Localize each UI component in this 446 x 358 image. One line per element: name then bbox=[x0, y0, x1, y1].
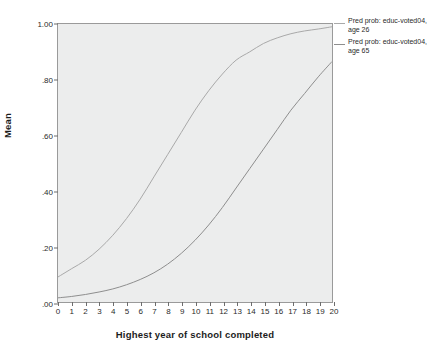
legend-line-swatch-age-65 bbox=[334, 40, 345, 47]
x-tick-label: 4 bbox=[111, 307, 115, 316]
legend-item-age-65: Pred prob: educ-voted04, age 65 bbox=[334, 37, 427, 55]
x-tick-label: 1 bbox=[70, 307, 74, 316]
x-tick-label: 15 bbox=[261, 307, 270, 316]
y-tick-label: .60 bbox=[42, 132, 53, 141]
y-tick-mark bbox=[54, 24, 58, 25]
x-tick-label: 16 bbox=[274, 307, 283, 316]
x-tick-label: 8 bbox=[166, 307, 170, 316]
x-tick-label: 11 bbox=[206, 307, 214, 316]
x-tick-label: 2 bbox=[83, 307, 87, 316]
x-tick-mark bbox=[293, 302, 294, 306]
series-line-0 bbox=[58, 27, 332, 277]
x-tick-mark bbox=[306, 302, 307, 306]
x-tick-mark bbox=[168, 302, 169, 306]
y-tick-label: .80 bbox=[42, 76, 53, 85]
x-tick-label: 20 bbox=[330, 307, 339, 316]
y-tick-label: .40 bbox=[42, 188, 53, 197]
x-tick-mark bbox=[182, 302, 183, 306]
x-tick-mark bbox=[196, 302, 197, 306]
x-axis-title: Highest year of school completed bbox=[57, 329, 333, 340]
legend-line-swatch-age-26 bbox=[334, 19, 345, 26]
x-tick-label: 14 bbox=[247, 307, 256, 316]
plot-area: 1.00.80.60.40.20.00012345678910111213141… bbox=[57, 23, 333, 303]
y-tick-mark bbox=[54, 136, 58, 137]
x-tick-mark bbox=[237, 302, 238, 306]
x-tick-mark bbox=[155, 302, 156, 306]
x-tick-label: 19 bbox=[316, 307, 325, 316]
plot-curves bbox=[58, 24, 332, 302]
x-tick-label: 10 bbox=[192, 307, 201, 316]
x-tick-mark bbox=[58, 302, 59, 306]
x-tick-mark bbox=[210, 302, 211, 306]
chart-container: 1.00.80.60.40.20.00012345678910111213141… bbox=[0, 0, 446, 358]
x-tick-label: 3 bbox=[97, 307, 101, 316]
y-tick-label: .00 bbox=[42, 300, 53, 309]
y-tick-label: .20 bbox=[42, 244, 53, 253]
x-tick-label: 9 bbox=[180, 307, 184, 316]
x-tick-mark bbox=[265, 302, 266, 306]
x-tick-mark bbox=[99, 302, 100, 306]
x-tick-label: 12 bbox=[219, 307, 228, 316]
x-tick-mark bbox=[113, 302, 114, 306]
y-tick-mark bbox=[54, 192, 58, 193]
x-tick-mark bbox=[224, 302, 225, 306]
x-tick-label: 17 bbox=[288, 307, 297, 316]
x-tick-label: 7 bbox=[152, 307, 156, 316]
legend-item-age-26: Pred prob: educ-voted04, age 26 bbox=[334, 16, 427, 34]
x-tick-mark bbox=[320, 302, 321, 306]
y-tick-mark bbox=[54, 248, 58, 249]
y-axis-title: Mean bbox=[2, 86, 13, 166]
legend-label-age-26: Pred prob: educ-voted04, age 26 bbox=[345, 16, 427, 34]
x-tick-mark bbox=[141, 302, 142, 306]
x-tick-mark bbox=[334, 302, 335, 306]
x-tick-label: 5 bbox=[125, 307, 129, 316]
x-tick-label: 6 bbox=[139, 307, 143, 316]
x-tick-mark bbox=[251, 302, 252, 306]
y-tick-mark bbox=[54, 80, 58, 81]
y-tick-label: 1.00 bbox=[37, 20, 53, 29]
x-tick-label: 13 bbox=[233, 307, 242, 316]
x-tick-mark bbox=[72, 302, 73, 306]
series-line-1 bbox=[58, 62, 332, 298]
x-tick-mark bbox=[127, 302, 128, 306]
legend-label-age-65: Pred prob: educ-voted04, age 65 bbox=[345, 37, 427, 55]
x-tick-mark bbox=[86, 302, 87, 306]
x-tick-label: 0 bbox=[56, 307, 60, 316]
x-tick-label: 18 bbox=[302, 307, 311, 316]
x-tick-mark bbox=[279, 302, 280, 306]
